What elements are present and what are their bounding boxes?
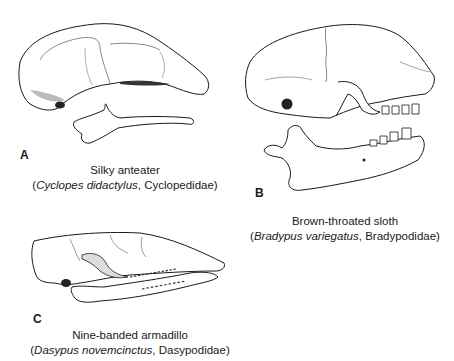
common-name: Nine-banded armadillo [30,328,230,343]
panel-b: B Brown-throated sloth (Bradypus variega… [230,0,454,250]
common-name: Brown-throated sloth [240,214,450,229]
brown-throated-sloth-skull-drawing [230,0,454,200]
scientific-line: (Cyclopes didactylus, Cyclopedidae) [30,178,220,193]
scientific-name: Bradypus variegatus [254,230,359,242]
family-name: Cyclopedidae [144,179,214,191]
scientific-line: (Dasypus novemcinctus, Dasypodidae) [30,343,230,358]
silky-anteater-skull-drawing [0,0,230,150]
scientific-line: (Bradypus variegatus, Bradypodidae) [240,229,450,244]
panel-letter: C [33,312,42,326]
scientific-name: Cyclopes didactylus [36,179,138,191]
common-name: Silky anteater [30,163,220,178]
scientific-name: Dasypus novemcinctus [34,344,152,356]
family-name: Bradypodidae [365,230,436,242]
family-name: Dasypodidae [159,344,226,356]
panel-a: A Silky anteater (Cyclopes didactylus, C… [0,0,230,200]
caption-brown-throated-sloth: Brown-throated sloth (Bradypus variegatu… [240,214,450,244]
caption-nine-banded-armadillo: Nine-banded armadillo (Dasypus novemcinc… [30,328,230,358]
panel-letter: B [255,186,264,200]
panel-letter: A [20,148,29,162]
panel-c: C Nine-banded armadillo (Dasypus novemci… [0,225,240,361]
nine-banded-armadillo-skull-drawing [0,225,240,315]
caption-silky-anteater: Silky anteater (Cyclopes didactylus, Cyc… [30,163,220,193]
